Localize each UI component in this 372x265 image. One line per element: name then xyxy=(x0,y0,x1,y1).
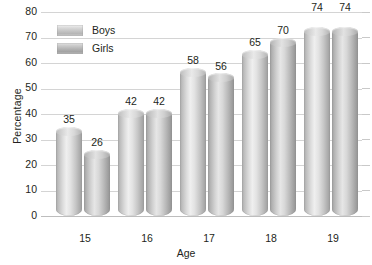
y-tick-label-70: 70 xyxy=(13,31,37,42)
y-tick-label-80: 80 xyxy=(13,6,37,17)
x-tick-label-19: 19 xyxy=(303,232,363,244)
y-tick-label-20: 20 xyxy=(13,159,37,170)
bar-boys-18 xyxy=(242,50,268,216)
x-tick-label-15: 15 xyxy=(55,232,115,244)
data-label-girls-17: 56 xyxy=(201,61,241,72)
data-label-boys-18: 65 xyxy=(235,37,275,48)
right-tick-mark xyxy=(362,139,370,140)
x-tick-label-18: 18 xyxy=(241,232,301,244)
data-label-girls-19: 74 xyxy=(325,2,365,13)
bar-boys-17 xyxy=(180,68,206,216)
bar-girls-17 xyxy=(208,73,234,216)
bar-girls-15 xyxy=(84,150,110,216)
data-label-girls-18: 70 xyxy=(263,25,303,36)
legend-item-boys: Boys xyxy=(57,22,115,38)
right-tick-mark xyxy=(362,37,370,38)
bar-girls-19 xyxy=(332,27,358,216)
y-tick-label-0: 0 xyxy=(13,210,37,221)
right-tick-mark xyxy=(362,165,370,166)
bar-girls-16 xyxy=(146,109,172,216)
y-tick-label-50: 50 xyxy=(13,82,37,93)
y-tick-label-40: 40 xyxy=(13,108,37,119)
data-label-girls-15: 26 xyxy=(77,137,117,148)
legend-swatch-girls-icon xyxy=(57,43,83,54)
legend: Boys Girls xyxy=(57,22,115,58)
right-tick-mark xyxy=(362,88,370,89)
gridline-axis-0 xyxy=(41,216,362,217)
bar-boys-16 xyxy=(118,109,144,216)
right-tick-mark xyxy=(362,63,370,64)
legend-label-boys: Boys xyxy=(92,25,115,36)
y-tick-label-60: 60 xyxy=(13,57,37,68)
y-tick-label-30: 30 xyxy=(13,133,37,144)
x-tick-label-16: 16 xyxy=(117,232,177,244)
bar-boys-19 xyxy=(304,27,330,216)
legend-item-girls: Girls xyxy=(57,40,115,56)
right-tick-mark xyxy=(362,190,370,191)
x-tick-label-17: 17 xyxy=(179,232,239,244)
right-tick-mark xyxy=(362,114,370,115)
x-axis-title: Age xyxy=(0,247,372,259)
data-label-girls-16: 42 xyxy=(139,96,179,107)
legend-swatch-boys-icon xyxy=(57,25,83,36)
y-tick-label-10: 10 xyxy=(13,184,37,195)
data-label-boys-15: 35 xyxy=(49,114,89,125)
legend-label-girls: Girls xyxy=(92,43,114,54)
bar-chart: Percentage 80 70 60 50 40 30 20 10 0 xyxy=(0,0,372,265)
bar-girls-18 xyxy=(270,38,296,217)
right-tick-mark xyxy=(362,216,370,217)
